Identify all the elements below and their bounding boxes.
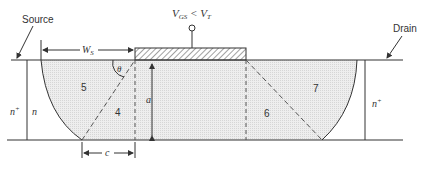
region-5-label: 5 xyxy=(81,82,87,93)
gate-terminal-icon xyxy=(189,25,195,31)
region-6-label: 6 xyxy=(264,108,270,119)
gate-electrode xyxy=(135,48,246,60)
source-label: Source xyxy=(22,14,54,25)
region-7-label: 7 xyxy=(313,83,319,94)
gate-voltage-label: VGS < VT xyxy=(172,7,212,21)
theta-label: θ xyxy=(117,64,122,74)
region-4-label: 4 xyxy=(115,107,121,118)
drain-label: Drain xyxy=(393,23,417,34)
n-plus-left-label: n+ xyxy=(10,105,20,117)
a-label: a xyxy=(146,94,151,105)
source-pointer-arrow xyxy=(17,26,33,58)
depletion-region xyxy=(41,60,357,140)
mosfet-diagram: θ a WS c VGS < VT Source Drain n+ n n+ 5… xyxy=(0,0,423,170)
n-plus-right-label: n+ xyxy=(372,97,382,109)
n-left-label: n xyxy=(32,106,37,117)
ws-label: WS xyxy=(82,44,94,57)
drain-pointer-arrow xyxy=(387,36,402,58)
c-label: c xyxy=(105,147,110,158)
